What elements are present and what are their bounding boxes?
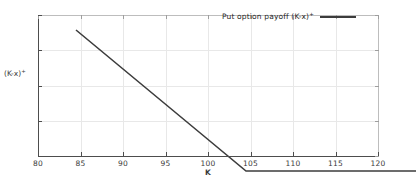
plot-area bbox=[38, 15, 378, 156]
x-tick-mark-top bbox=[166, 15, 167, 19]
x-tick-mark bbox=[208, 152, 209, 156]
x-tick-label: 90 bbox=[118, 159, 128, 168]
x-tick-mark bbox=[166, 152, 167, 156]
legend: Put option payoff (K-x)+ bbox=[222, 12, 356, 21]
x-axis-title: K bbox=[205, 168, 211, 177]
x-tick-label: 80 bbox=[33, 159, 43, 168]
y-tick-mark bbox=[38, 15, 42, 16]
y-tick-mark-right bbox=[375, 121, 379, 122]
y-axis-title: (K-x)+ bbox=[4, 69, 26, 78]
legend-line-swatch bbox=[320, 16, 356, 18]
y-axis-title-text: (K-x) bbox=[4, 69, 21, 78]
y-tick-mark-right bbox=[375, 156, 379, 157]
y-tick-mark-right bbox=[375, 50, 379, 51]
x-tick-label: 85 bbox=[76, 159, 86, 168]
x-tick-mark bbox=[81, 152, 82, 156]
y-axis-title-superscript: + bbox=[21, 68, 26, 74]
y-tick-mark bbox=[38, 121, 42, 122]
legend-entry-label-superscript: + bbox=[309, 11, 314, 17]
x-tick-label: 100 bbox=[201, 159, 216, 168]
x-tick-mark bbox=[123, 152, 124, 156]
series-line bbox=[76, 30, 416, 171]
x-tick-mark bbox=[293, 152, 294, 156]
y-tick-mark bbox=[38, 156, 42, 157]
legend-entry-label-text: Put option payoff (K-x) bbox=[222, 12, 309, 21]
x-tick-mark bbox=[336, 152, 337, 156]
x-tick-mark bbox=[251, 152, 252, 156]
x-tick-label: 105 bbox=[243, 159, 258, 168]
x-tick-mark-top bbox=[208, 15, 209, 19]
x-tick-label: 95 bbox=[161, 159, 171, 168]
x-axis-line bbox=[38, 156, 378, 157]
y-tick-mark bbox=[38, 50, 42, 51]
x-tick-label: 115 bbox=[328, 159, 343, 168]
x-tick-label: 110 bbox=[286, 159, 301, 168]
x-axis-title-text: K bbox=[205, 168, 211, 177]
x-tick-mark-top bbox=[123, 15, 124, 19]
series-put-option-payoff bbox=[76, 30, 416, 171]
y-tick-mark-right bbox=[375, 15, 379, 16]
legend-entry-label: Put option payoff (K-x)+ bbox=[222, 12, 314, 21]
y-tick-mark-right bbox=[375, 86, 379, 87]
x-tick-mark-top bbox=[81, 15, 82, 19]
x-tick-label: 120 bbox=[371, 159, 386, 168]
y-tick-mark bbox=[38, 86, 42, 87]
